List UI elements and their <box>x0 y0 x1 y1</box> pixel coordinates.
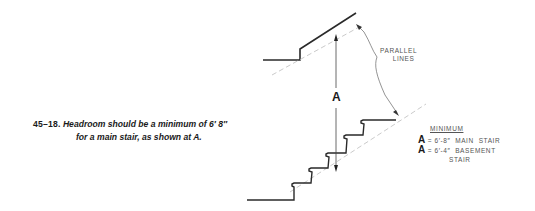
stair-headroom-diagram <box>0 0 535 211</box>
figure-caption: 45–18. Headroom should be a minimum of 6… <box>33 118 227 144</box>
upper-parallel-line <box>272 26 361 75</box>
ceiling-line <box>263 13 356 60</box>
leader-upper <box>358 26 377 57</box>
caption-text-1: Headroom should be a minimum of 6′ 8″ <box>63 119 227 129</box>
minimum-value: = 6′-8″ MAIN STAIR <box>428 137 501 144</box>
parallel-label-line2: LINES <box>380 55 417 63</box>
leader-lower-arrowhead-icon <box>393 110 399 116</box>
minimum-value: = 6′-4″ BASEMENT <box>428 147 496 154</box>
leader-lower <box>376 57 397 113</box>
minimum-row-basement: A = 6′-4″ BASEMENT <box>418 145 500 155</box>
minimum-heading: MINIMUM <box>418 124 500 133</box>
caption-line1: 45–18. Headroom should be a minimum of 6… <box>33 118 227 131</box>
minimum-symbol: A <box>418 144 425 155</box>
minimum-table: MINIMUM A = 6′-8″ MAIN STAIR A = 6′-4″ B… <box>418 124 500 164</box>
minimum-row-main: A = 6′-8″ MAIN STAIR <box>418 135 500 145</box>
caption-line2: for a main stair, as shown at A. <box>33 131 227 144</box>
minimum-row-basement-cont: STAIR <box>418 155 500 164</box>
lower-parallel-line <box>290 104 426 192</box>
parallel-lines-label: PARALLEL LINES <box>380 47 417 63</box>
parallel-label-line1: PARALLEL <box>380 47 417 55</box>
arrowhead-down-icon <box>334 165 338 172</box>
figure-number: 45–18. <box>33 119 61 129</box>
stair-profile <box>247 120 396 200</box>
arrowhead-up-icon <box>334 34 338 41</box>
dimension-label-a: A <box>332 90 341 104</box>
